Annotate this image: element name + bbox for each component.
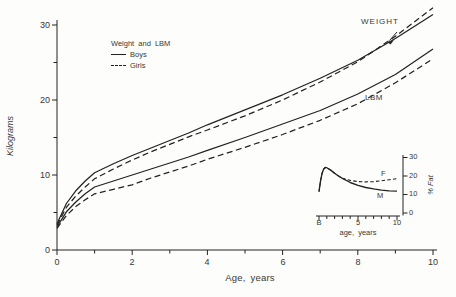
y-tick-label-20: 20 [28,95,50,106]
inset-y-tick-label-20: 20 [409,172,417,180]
x-tick-label-0: 0 [46,257,68,268]
x-tick-label-8: 8 [347,257,369,268]
y-tick-label-10: 10 [28,170,50,181]
x-tick-label-10: 10 [422,257,444,268]
x-tick-label-4: 4 [196,257,218,268]
legend-title: Weight and LBM [111,38,170,49]
legend-entry-boys: Boys [111,49,170,60]
inset-x-tick-label-10: 10 [390,219,404,227]
inset-y-tick-label-10: 10 [409,190,417,198]
y-axis-title: Kilograms [5,101,17,171]
lbm-curve-label: LBM [365,93,383,102]
inset-y-axis-title: % Fat [426,155,436,215]
figure-canvas [0,0,456,297]
curve-lbm-boys [57,49,433,227]
x-tick-label-6: 6 [272,257,294,268]
inset-x-tick-label-5: 5 [351,219,365,227]
growth-chart-figure: 30 20 10 0 0 2 4 6 8 10 Age, years Kilog… [0,0,456,297]
inset-female-curve-label: F [381,169,386,178]
legend: Weight and LBM Boys Girls [111,38,170,71]
x-tick-label-2: 2 [121,257,143,268]
solid-line-sample-icon [111,54,126,55]
x-axis-title: Age, years [200,272,300,283]
weight-curve-label: WEIGHT [361,17,399,26]
inset-x-tick-label-birth: B [312,219,326,227]
y-tick-label-30: 30 [28,20,50,31]
legend-label-girls: Girls [130,61,145,70]
dashed-line-sample-icon [111,65,126,66]
legend-entry-girls: Girls [111,60,170,71]
y-tick-label-0: 0 [28,245,50,256]
inset-male-curve-label: M [377,191,383,200]
inset-y-tick-label-30: 30 [409,153,417,161]
inset-x-axis-title: age, years [322,228,394,237]
inset-y-tick-label-0: 0 [409,209,413,217]
legend-label-boys: Boys [130,50,147,59]
